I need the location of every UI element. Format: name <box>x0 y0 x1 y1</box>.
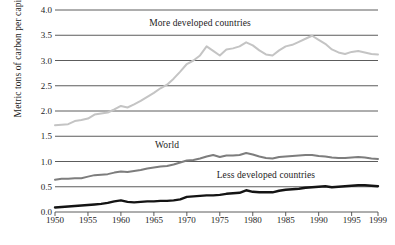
series-label: Less developed countries <box>217 170 315 180</box>
x-tick-label: 1995 <box>343 216 361 225</box>
x-tick-label: 1985 <box>277 216 295 225</box>
series-line <box>55 36 378 125</box>
x-axis-ticks: 1950195519601965197019751980198519901995… <box>0 216 395 230</box>
y-tick-label: 3.5 <box>26 31 52 40</box>
y-tick-label: 4.0 <box>26 6 52 15</box>
y-tick-label: 0.5 <box>26 182 52 191</box>
x-tick-label: 1960 <box>112 216 130 225</box>
y-tick-label: 3.0 <box>26 56 52 65</box>
x-tick-label: 1990 <box>310 216 328 225</box>
x-tick-label: 1999 <box>369 216 387 225</box>
x-tick-label: 1965 <box>145 216 163 225</box>
x-tick-label: 1970 <box>178 216 196 225</box>
y-tick-label: 2.5 <box>26 81 52 90</box>
series-label: World <box>155 140 179 150</box>
y-axis-ticks: 0.00.51.01.52.02.53.03.54.0 <box>24 0 52 245</box>
chart-plot-area <box>0 0 395 245</box>
y-tick-label: 1.5 <box>26 132 52 141</box>
x-tick-label: 1950 <box>46 216 64 225</box>
series-lines <box>55 36 378 208</box>
series-label: More developed countries <box>149 18 251 28</box>
y-tick-label: 2.0 <box>26 107 52 116</box>
chart-figure: Metric tons of carbon per capita 0.00.51… <box>0 0 395 245</box>
x-tick-label: 1955 <box>79 216 97 225</box>
series-line <box>55 185 378 207</box>
gridlines <box>55 10 378 212</box>
x-tick-label: 1980 <box>244 216 262 225</box>
y-tick-label: 1.0 <box>26 157 52 166</box>
x-tick-label: 1975 <box>211 216 229 225</box>
y-axis-label: Metric tons of carbon per capita <box>13 0 23 155</box>
